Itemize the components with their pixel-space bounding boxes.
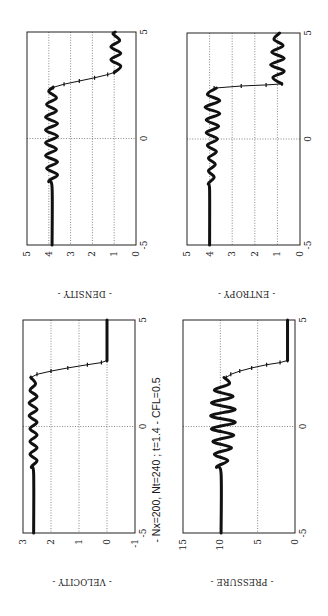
y-tick-label: 0 bbox=[290, 539, 300, 545]
panel-pressure: 051015-505- PRESSURE - bbox=[178, 317, 308, 587]
y-tick-label: 15 bbox=[178, 539, 188, 551]
series-density bbox=[46, 87, 58, 245]
x-tick-label: 5 bbox=[139, 29, 149, 35]
series-density-shock bbox=[53, 72, 114, 87]
y-tick-label: 0 bbox=[102, 539, 112, 545]
x-tick-label: 0 bbox=[139, 135, 149, 141]
x-tick-label: -5 bbox=[138, 528, 148, 537]
series-entropy bbox=[205, 88, 220, 245]
x-tick-label: -5 bbox=[298, 528, 308, 537]
y-tick-label: 1 bbox=[109, 251, 119, 257]
panel-density: 012345-505- DENSITY - bbox=[22, 29, 149, 299]
x-tick-label: 5 bbox=[138, 317, 148, 323]
y-tick-label: 0 bbox=[295, 251, 305, 257]
x-tick-label: 0 bbox=[298, 423, 308, 429]
panel-velocity: -10123-505- VELOCITY - bbox=[18, 317, 148, 587]
series-pressure bbox=[211, 378, 236, 533]
series-density-right bbox=[111, 32, 121, 72]
series-pressure-shock bbox=[226, 360, 287, 377]
x-tick-label: 0 bbox=[138, 423, 148, 429]
y-tick-label: 3 bbox=[227, 251, 237, 257]
y-tick-label: 0 bbox=[131, 251, 141, 257]
y-tick-label: -1 bbox=[130, 539, 140, 548]
y-tick-label: 4 bbox=[44, 251, 54, 257]
plot-frame bbox=[183, 320, 295, 533]
series-velocity bbox=[29, 378, 37, 533]
panel-title: - DENSITY - bbox=[57, 289, 111, 299]
panel-entropy: 012345-505- ENTROPY - bbox=[182, 30, 313, 299]
y-tick-label: 5 bbox=[22, 251, 32, 257]
y-tick-label: 3 bbox=[66, 251, 76, 257]
panel-title: - PRESSURE - bbox=[210, 577, 273, 587]
y-tick-label: 4 bbox=[205, 251, 215, 257]
y-tick-label: 5 bbox=[182, 251, 192, 257]
y-tick-label: 10 bbox=[215, 539, 225, 551]
series-entropy-right bbox=[271, 33, 285, 84]
x-tick-label: -5 bbox=[303, 240, 313, 249]
plot-frame bbox=[187, 33, 300, 245]
series-velocity-shock bbox=[31, 360, 107, 377]
panel-title: - VELOCITY - bbox=[52, 577, 112, 587]
y-tick-label: 2 bbox=[87, 251, 97, 257]
x-tick-label: 0 bbox=[303, 136, 313, 142]
y-tick-label: 2 bbox=[250, 251, 260, 257]
y-tick-label: 1 bbox=[272, 251, 282, 257]
x-tick-label: 5 bbox=[298, 317, 308, 323]
y-tick-label: 1 bbox=[74, 539, 84, 545]
y-tick-label: 3 bbox=[18, 539, 28, 545]
figure: 012345-505- DENSITY - 012345-505- ENTROP… bbox=[0, 0, 328, 616]
y-tick-label: 2 bbox=[46, 539, 56, 545]
x-tick-label: 5 bbox=[303, 30, 313, 36]
figure-caption: - Nx=200, Nt=240 ; t=1.4 - CFL=0.5 bbox=[150, 377, 162, 542]
y-tick-label: 5 bbox=[253, 539, 263, 545]
x-tick-label: -5 bbox=[139, 240, 149, 249]
series-entropy-contact bbox=[214, 84, 282, 88]
panel-title: - ENTROPY - bbox=[218, 289, 275, 299]
